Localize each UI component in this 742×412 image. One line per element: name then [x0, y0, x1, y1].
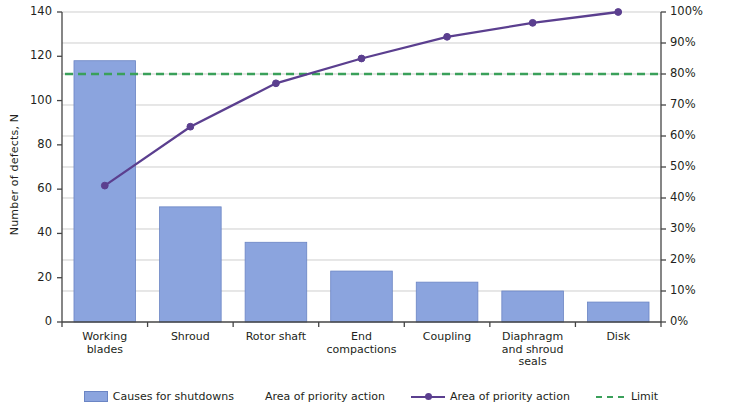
bar [245, 242, 307, 322]
y-axis-left-tick: 20 [18, 270, 52, 284]
legend-item-label: Area of priority action [450, 390, 570, 403]
legend-symbol-bar-swatch-icon [84, 391, 108, 402]
y-axis-right-tick: 90% [670, 35, 714, 49]
data-point-marker [444, 33, 451, 40]
legend-symbol-line-marker-icon [411, 392, 445, 401]
y-axis-left-tick: 80 [18, 137, 52, 151]
y-axis-right-tick: 60% [670, 128, 714, 142]
y-axis-right-tick: 70% [670, 97, 714, 111]
pareto-chart: Number of defects, N Percentage of defec… [0, 0, 742, 412]
data-point-marker [187, 123, 194, 130]
legend-item[interactable]: Area of priority action [411, 390, 570, 403]
bars-group [74, 61, 649, 322]
y-axis-right-tick: 20% [670, 252, 714, 266]
y-axis-right-tick: 0% [670, 314, 714, 328]
x-axis-category-label: Disk [562, 331, 674, 344]
bar [416, 282, 478, 322]
y-axis-right-tick: 30% [670, 221, 714, 235]
y-axis-right-tick: 100% [670, 4, 714, 18]
data-point-marker [615, 9, 622, 16]
gridlines [62, 12, 661, 291]
y-axis-left-tick: 140 [18, 4, 52, 18]
bar [160, 207, 222, 322]
data-point-marker [358, 55, 365, 62]
data-point-marker [529, 19, 536, 26]
data-point-marker [273, 80, 280, 87]
legend-item-label: Causes for shutdowns [113, 390, 234, 403]
y-axis-left-tick: 120 [18, 48, 52, 62]
y-axis-right-tick: 10% [670, 283, 714, 297]
data-point-marker [101, 182, 108, 189]
bar [74, 61, 136, 322]
chart-legend: Causes for shutdownsArea of priority act… [0, 382, 742, 410]
y-axis-left-tick: 60 [18, 181, 52, 195]
y-axis-right-tick: 80% [670, 66, 714, 80]
y-axis-left-tick: 40 [18, 225, 52, 239]
legend-symbol-dashed-line-icon [596, 392, 626, 401]
legend-item[interactable]: Limit [596, 390, 658, 403]
cumulative-line [101, 9, 621, 189]
legend-item-label: Limit [631, 390, 658, 403]
y-axis-right-tick: 40% [670, 190, 714, 204]
legend-item-label: Area of priority action [265, 390, 385, 403]
cumulative-line-path [105, 12, 618, 186]
y-axis-left-tick: 100 [18, 93, 52, 107]
y-axis-left-tick: 0 [18, 314, 52, 328]
legend-item[interactable]: Area of priority action [260, 390, 385, 403]
legend-item[interactable]: Causes for shutdowns [84, 390, 234, 403]
bar [502, 291, 564, 322]
y-axis-right-tick: 50% [670, 159, 714, 173]
bar [331, 271, 393, 322]
bar [587, 302, 649, 322]
